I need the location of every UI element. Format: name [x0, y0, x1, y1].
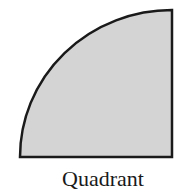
- quadrant-shape: [20, 10, 172, 157]
- shape-label: Quadrant: [0, 167, 178, 191]
- quadrant-diagram: [0, 0, 178, 193]
